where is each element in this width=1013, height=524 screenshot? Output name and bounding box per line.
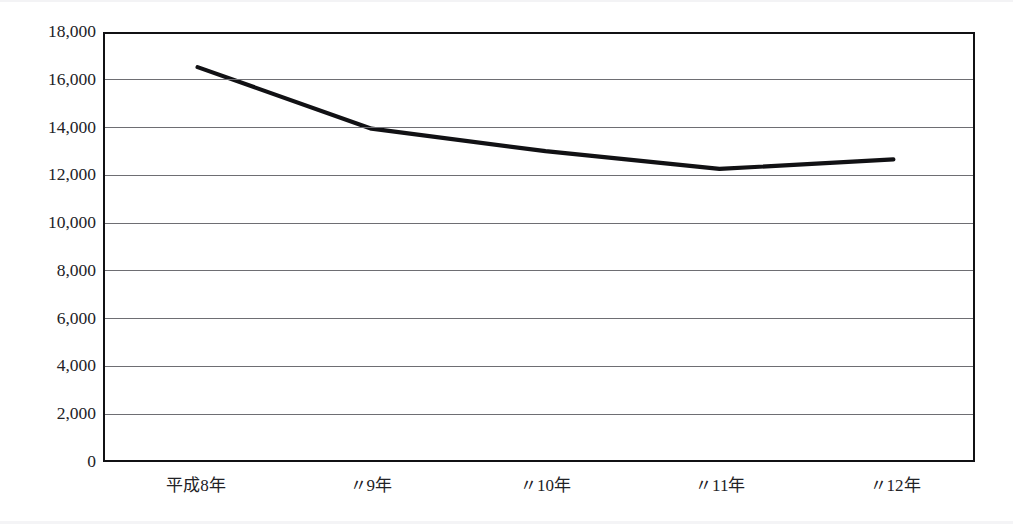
gridline: [105, 366, 973, 367]
x-axis-tick-label: 〃12年: [870, 476, 921, 496]
gridline: [105, 270, 973, 271]
gridline: [105, 223, 973, 224]
y-axis-tick-label: 6,000: [0, 310, 96, 328]
series-line: [105, 34, 973, 460]
y-axis-tick-label: 4,000: [0, 357, 96, 375]
gridline: [105, 175, 973, 176]
y-axis-tick-labels: 18,00016,00014,00012,00010,0008,0006,000…: [0, 0, 96, 524]
gridline: [105, 127, 973, 128]
x-axis-tick-label: 〃11年: [695, 476, 745, 496]
gridline: [105, 318, 973, 319]
line-chart: 18,00016,00014,00012,00010,0008,0006,000…: [0, 0, 1013, 524]
y-axis-tick-label: 18,000: [0, 23, 96, 41]
y-axis-tick-label: 8,000: [0, 262, 96, 280]
x-axis-tick-label: 〃9年: [350, 476, 393, 496]
y-axis-tick-label: 14,000: [0, 119, 96, 137]
x-axis-tick-label: 平成8年: [166, 476, 226, 496]
gridline: [105, 414, 973, 415]
y-axis-tick-label: 10,000: [0, 214, 96, 232]
gridline: [105, 79, 973, 80]
x-axis-tick-labels: 平成8年〃9年〃10年〃11年〃12年: [0, 476, 1013, 516]
x-axis-tick-label: 〃10年: [520, 476, 571, 496]
scan-edge-top: [0, 0, 1013, 2]
y-axis-tick-label: 16,000: [0, 71, 96, 89]
plot-area: [103, 32, 975, 462]
y-axis-tick-label: 0: [0, 453, 96, 471]
y-axis-tick-label: 2,000: [0, 405, 96, 423]
y-axis-tick-label: 12,000: [0, 166, 96, 184]
